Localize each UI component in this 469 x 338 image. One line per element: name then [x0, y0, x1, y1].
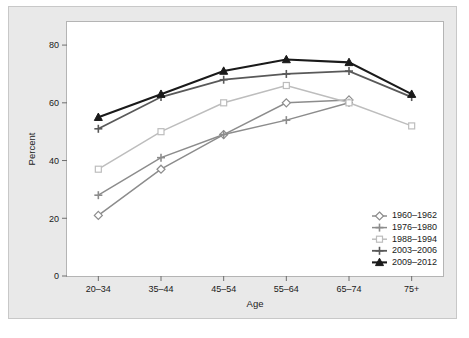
legend-label: 1976–1980: [392, 222, 437, 232]
legend-label: 1988–1994: [392, 234, 437, 244]
y-tick-label: 80: [49, 40, 59, 50]
legend-swatch-marker: [376, 212, 384, 220]
series-1960–1962: [94, 96, 353, 219]
data-point-marker: [158, 129, 164, 135]
x-tick-label: 45–54: [211, 284, 236, 294]
legend-label: 2003–2006: [392, 245, 437, 255]
series-line: [98, 100, 349, 215]
y-tick-label: 20: [49, 214, 59, 224]
data-point-marker: [409, 123, 415, 129]
data-point-marker: [282, 99, 290, 107]
y-tick-label: 0: [54, 271, 59, 281]
series-2009–2012: [94, 55, 415, 120]
data-point-marker: [346, 100, 352, 106]
x-axis-title: Age: [247, 298, 264, 309]
legend-swatch-marker: [377, 236, 383, 242]
chart-legend: 1960–19621976–19801988–19942003–20062009…: [372, 210, 437, 266]
line-chart: 020406080 20–3435–4445–5455–6465–7475+ P…: [9, 7, 458, 320]
x-tick-label: 55–64: [274, 284, 299, 294]
series-line: [98, 103, 349, 195]
figure-panel: 020406080 20–3435–4445–5455–6465–7475+ P…: [8, 6, 457, 319]
y-tick-label: 40: [49, 156, 59, 166]
legend-label: 2009–2012: [392, 257, 437, 267]
y-axis-ticks: 020406080: [49, 40, 67, 281]
data-point-marker: [95, 166, 101, 172]
y-tick-label: 60: [49, 98, 59, 108]
data-point-marker: [221, 100, 227, 106]
x-tick-label: 35–44: [148, 284, 173, 294]
data-series-group: [94, 55, 415, 219]
x-axis-ticks: 20–3435–4445–5455–6465–7475+: [86, 276, 419, 294]
x-tick-label: 20–34: [86, 284, 111, 294]
y-axis-title: Percent: [26, 132, 37, 165]
legend-label: 1960–1962: [392, 210, 437, 220]
x-tick-label: 65–74: [336, 284, 361, 294]
x-tick-label: 75+: [404, 284, 419, 294]
data-point-marker: [283, 83, 289, 89]
